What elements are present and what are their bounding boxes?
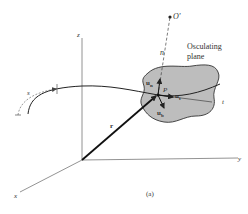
label-normal-axis: n	[160, 48, 164, 57]
label-plane-title-line1: Osculating	[187, 42, 222, 51]
center-of-curvature-point	[168, 15, 171, 18]
diagram-canvas: O' n Osculating plane P t un ut ub r s z…	[0, 0, 248, 214]
label-position-vector: r	[110, 122, 113, 130]
label-arc-length: s	[27, 89, 30, 97]
figure-caption: (a)	[146, 190, 154, 198]
label-z-axis: z	[76, 31, 80, 39]
label-tangent-axis: t	[222, 98, 225, 106]
arc-length-indicator	[18, 89, 56, 115]
position-vector	[82, 96, 156, 160]
osculating-plane-diagram: O' n Osculating plane P t un ut ub r s z…	[0, 0, 248, 214]
point-p	[157, 94, 160, 97]
label-y-axis: y	[237, 155, 242, 163]
x-axis	[20, 160, 82, 192]
label-center-of-curvature: O'	[173, 12, 181, 21]
label-plane-title-line2: plane	[187, 52, 205, 61]
y-axis	[82, 158, 238, 160]
label-x-axis: x	[13, 192, 18, 200]
label-point-p: P	[162, 86, 168, 94]
